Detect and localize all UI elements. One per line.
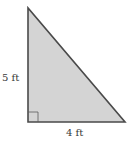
triangle-shape — [28, 8, 125, 122]
right-triangle-diagram: 5 ft 4 ft — [0, 0, 130, 146]
vertical-leg-label: 5 ft — [2, 72, 19, 83]
horizontal-leg-label: 4 ft — [66, 127, 83, 138]
